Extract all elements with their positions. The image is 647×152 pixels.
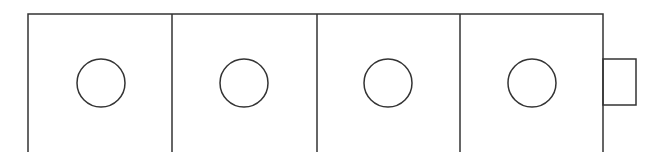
- outer-box: [28, 14, 603, 152]
- panel-2-circle: [220, 59, 268, 107]
- panel-3-circle: [364, 59, 412, 107]
- panel-dividers: [172, 14, 460, 152]
- panel-4-circle: [508, 59, 556, 107]
- side-tab: [603, 59, 636, 105]
- diagram-canvas: [0, 0, 647, 152]
- four-panel-diagram: [0, 0, 647, 152]
- panel-1-circle: [77, 59, 125, 107]
